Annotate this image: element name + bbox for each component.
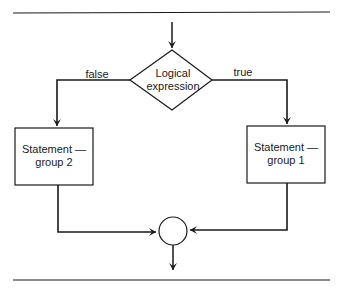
- statement-group-2-label: Statement — group 2: [15, 143, 93, 169]
- top-divider: [13, 12, 330, 13]
- true-branch-line: [212, 80, 287, 124]
- right-return-line: [190, 183, 287, 230]
- false-branch-line: [57, 80, 130, 126]
- statement-group-1-label: Statement — group 1: [247, 141, 325, 167]
- false-label: false: [80, 68, 114, 81]
- decision-label: Logical expression: [134, 67, 212, 93]
- join-circle: [159, 217, 187, 245]
- left-return-line: [58, 185, 156, 232]
- true-label: true: [228, 66, 258, 79]
